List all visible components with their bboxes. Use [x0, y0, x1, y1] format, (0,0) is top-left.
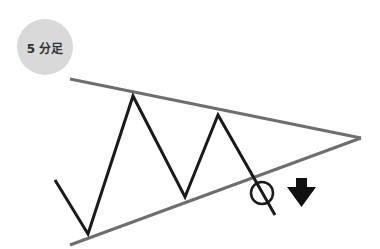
price-line: [55, 96, 275, 234]
down-arrow-icon: [287, 178, 316, 207]
triangle-diagram: [0, 0, 380, 249]
upper-trendline: [70, 79, 361, 138]
